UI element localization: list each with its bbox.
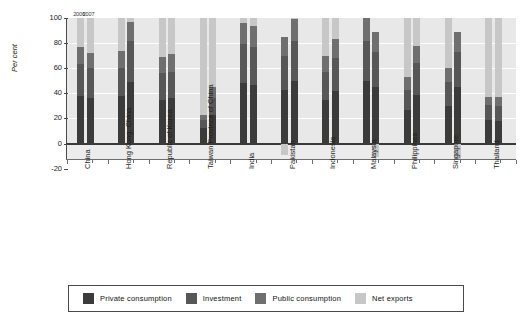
bar-segment-pub (281, 37, 288, 56)
bar-2007 (291, 18, 298, 144)
x-tick-mark-minor (378, 160, 379, 163)
legend-item-4[interactable]: Net exports (355, 293, 413, 304)
bar-segment-net (250, 18, 257, 26)
y-tick-label: 60 (54, 64, 62, 72)
category-label: Republic of Korea (165, 109, 174, 169)
bar-segment-net (209, 18, 216, 87)
y-tick-label: 20 (54, 114, 62, 122)
category-label: India (247, 153, 256, 169)
x-tick-mark (475, 160, 476, 164)
year-annotation: 2007 (83, 11, 95, 17)
bar-segment-pub (332, 39, 339, 58)
bar-segment-pub (363, 18, 370, 41)
bar-segment-inv (372, 52, 379, 87)
y-tick-mark (64, 169, 68, 170)
legend-item-1[interactable]: Private consumption (83, 293, 172, 304)
legend-label: Public consumption (272, 294, 341, 303)
category-label: Pakistan (288, 140, 297, 169)
x-tick-mark (312, 160, 313, 164)
y-tick-mark (64, 18, 68, 19)
y-axis-title: Per cent (10, 44, 19, 72)
bar-segment-priv (240, 83, 247, 143)
y-tick-label: 40 (54, 89, 62, 97)
x-tick-mark-minor (256, 160, 257, 163)
bar-segment-pub (485, 97, 492, 105)
bar-segment-inv (87, 68, 94, 98)
legend-label: Net exports (372, 294, 413, 303)
legend-item-3[interactable]: Public consumption (255, 293, 341, 304)
bar-segment-pub (240, 23, 247, 44)
bar-2007 (332, 18, 339, 144)
legend-swatch-icon (83, 293, 94, 304)
x-tick-mark-minor (337, 160, 338, 163)
bar-segment-inv (77, 64, 84, 95)
bar-segment-net (87, 18, 94, 53)
x-tick-mark (149, 160, 150, 164)
bar-segment-net (445, 18, 452, 68)
bar-segment-inv (127, 41, 134, 82)
bar-segment-pub (250, 26, 257, 47)
bar-segment-net (322, 18, 329, 56)
bar-segment-pub (322, 56, 329, 72)
legend-swatch-icon (255, 293, 266, 304)
legend-label: Private consumption (100, 294, 172, 303)
bar-segment-priv (363, 81, 370, 144)
y-tick-label: 100 (49, 14, 62, 22)
bar-segment-pub (454, 32, 461, 52)
bar-2006 (363, 18, 370, 144)
x-tick-mark-minor (460, 160, 461, 163)
legend-swatch-icon (186, 293, 197, 304)
bar-segment-net (159, 18, 166, 57)
x-tick-mark (516, 160, 517, 164)
chart-legend: Private consumptionInvestmentPublic cons… (68, 285, 464, 312)
bar-2007 (454, 32, 461, 144)
x-tick-mark (108, 160, 109, 164)
bar-segment-pub (118, 51, 125, 69)
bar-2007 (413, 18, 420, 144)
category-label: Indonesia (328, 136, 337, 169)
bar-segment-inv (485, 105, 492, 120)
x-tick-mark-minor (215, 160, 216, 163)
bar-segment-pub (413, 46, 420, 64)
y-axis-line (66, 18, 67, 160)
bar-segment-pub (291, 19, 298, 40)
category-label: Taiwan Province of China (206, 84, 215, 169)
legend-swatch-icon (355, 293, 366, 304)
bar-segment-inv (404, 90, 411, 110)
bar-2006 (281, 37, 288, 144)
bar-segment-pub (404, 77, 411, 90)
category-label: Hong Kong, China (124, 108, 133, 169)
category-label: Malaysia (369, 139, 378, 169)
bar-segment-priv (87, 98, 94, 143)
bar-segment-pub (159, 57, 166, 73)
bar-segment-net (332, 18, 339, 39)
bar-segment-inv (454, 52, 461, 87)
bar-2007 (495, 18, 502, 144)
x-tick-mark (230, 160, 231, 164)
bar-segment-priv (77, 96, 84, 144)
bar-2006 (77, 18, 84, 144)
bar-2006 (322, 18, 329, 144)
bar-segment-priv (291, 81, 298, 144)
y-axis-labels: Per cent -20020406080100 (18, 0, 62, 327)
bar-2007 (250, 18, 257, 144)
bar-2006 (240, 18, 247, 144)
x-tick-mark (394, 160, 395, 164)
legend-item-2[interactable]: Investment (186, 293, 242, 304)
bar-segment-inv (413, 63, 420, 94)
category-label: Singapore (451, 135, 460, 169)
bar-segment-pub (168, 54, 175, 72)
bar-segment-inv (250, 47, 257, 85)
y-tick-mark (64, 93, 68, 94)
x-tick-mark (353, 160, 354, 164)
y-tick-mark (64, 118, 68, 119)
y-tick-mark (64, 144, 68, 145)
y-tick-label: -20 (51, 165, 62, 173)
bar-2006 (485, 18, 492, 144)
x-tick-mark-minor (174, 160, 175, 163)
bar-segment-net (404, 18, 411, 77)
bar-segment-priv (281, 90, 288, 144)
x-tick-mark (271, 160, 272, 164)
bar-segment-inv (291, 41, 298, 81)
bar-segment-pub (77, 47, 84, 65)
